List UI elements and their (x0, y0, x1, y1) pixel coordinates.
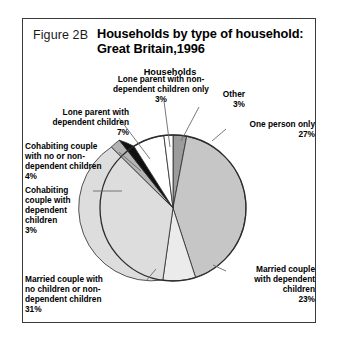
leader-line-one-person (212, 129, 226, 141)
pie-label-one-person: One person only 27% (227, 119, 315, 139)
pie-chart: Lone parent with dependent children 7% C… (23, 19, 317, 324)
pie-label-cohabiting-no-children: Cohabiting couple with no or non- depend… (25, 141, 129, 181)
pie-label-married-no-children: Married couple with no children or non- … (25, 274, 151, 314)
figure-frame: Figure 2B Households by type of househol… (22, 18, 316, 323)
pie-label-married-dependent: Married couple with dependent children 2… (227, 264, 315, 304)
pie-label-cohabiting-dependent: Cohabiting couple with dependent childre… (25, 185, 99, 235)
leader-line-other (181, 107, 199, 141)
pie-label-lone-parent-dependent: Lone parent with dependent children 7% (25, 107, 129, 137)
pie-label-other: Other 3% (199, 89, 245, 109)
